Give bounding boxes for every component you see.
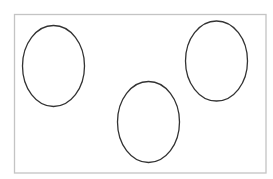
diagram-canvas bbox=[0, 0, 273, 179]
